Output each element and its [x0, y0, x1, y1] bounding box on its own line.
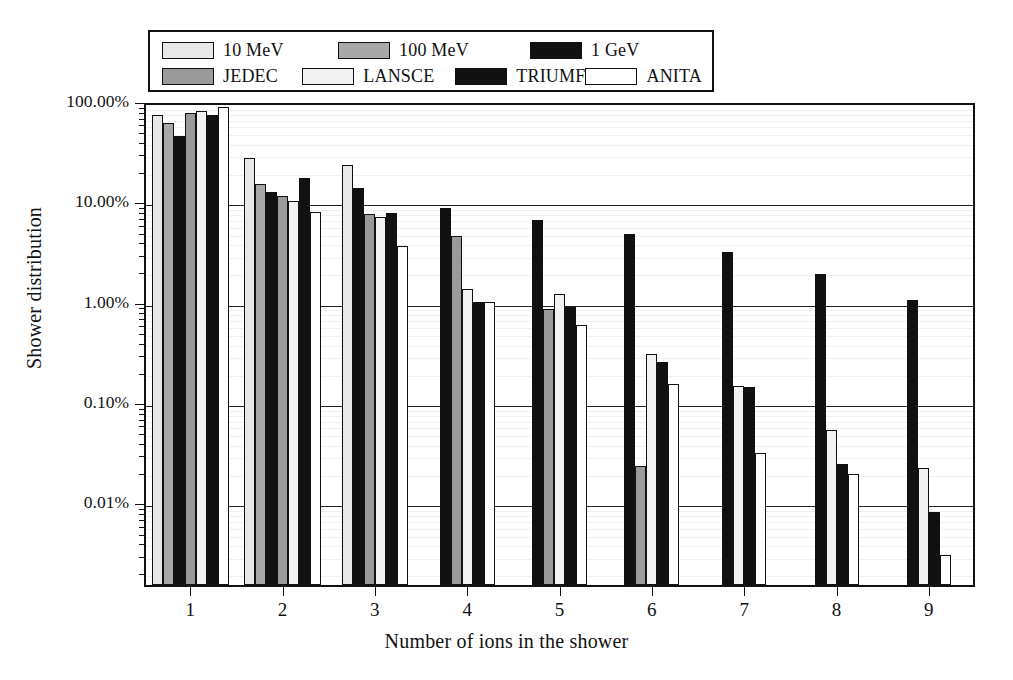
y-tick-minor — [139, 456, 144, 457]
y-tick-minor — [139, 226, 144, 227]
y-tick-minor — [139, 520, 144, 521]
minor-gridline — [146, 157, 973, 158]
bar-triumf-6 — [657, 362, 668, 585]
y-tick-minor — [139, 434, 144, 435]
bar-lansce-8 — [826, 430, 837, 585]
y-tick-minor — [139, 535, 144, 536]
bar-jedec-1 — [185, 113, 196, 585]
y-tick-minor — [139, 474, 144, 475]
plot-area — [144, 103, 975, 587]
bar-100-mev-1 — [163, 123, 174, 585]
bar-anita-7 — [755, 453, 766, 585]
y-tick-minor — [139, 119, 144, 120]
y-tick-major — [135, 304, 144, 305]
x-tick — [467, 587, 468, 596]
bar-anita-2 — [310, 212, 321, 585]
y-tick-minor — [139, 113, 144, 114]
legend-swatch-triumf — [455, 68, 507, 85]
minor-gridline — [146, 135, 973, 136]
y-tick-label: 10.00% — [11, 193, 129, 210]
y-tick-minor — [139, 319, 144, 320]
bar-1-gev-7 — [722, 252, 733, 585]
y-tick-minor — [139, 374, 144, 375]
x-tick-label-4: 4 — [447, 599, 487, 621]
y-tick-minor — [139, 155, 144, 156]
bar-jedec-2 — [277, 196, 288, 585]
legend-swatch-1-gev — [530, 42, 582, 59]
bar-jedec-3 — [364, 214, 375, 585]
bar-lansce-4 — [462, 289, 473, 585]
bar-triumf-5 — [565, 307, 576, 585]
legend-item-triumf: TRIUMF — [455, 63, 585, 89]
bar-anita-9 — [940, 555, 951, 585]
legend-item-1-gev: 1 GeV — [530, 37, 670, 63]
bar-10-mev-2 — [244, 158, 255, 585]
legend-item-lansce: LANSCE — [302, 63, 455, 89]
y-tick-minor — [139, 426, 144, 427]
x-tick-label-2: 2 — [263, 599, 303, 621]
bar-triumf-8 — [837, 464, 848, 585]
y-tick-label: 100.00% — [11, 93, 129, 110]
bar-triumf-7 — [744, 387, 755, 585]
x-tick — [283, 587, 284, 596]
legend-row-1: 10 MeV 100 MeV 1 GeV — [162, 37, 702, 63]
y-tick-minor — [139, 444, 144, 445]
legend-label-lansce: LANSCE — [363, 67, 434, 85]
legend-label-1-gev: 1 GeV — [591, 41, 640, 59]
bar-anita-1 — [218, 107, 229, 585]
y-tick-minor — [139, 574, 144, 575]
bar-1-gev-3 — [353, 188, 364, 585]
x-tick — [744, 587, 745, 596]
bar-lansce-3 — [375, 217, 386, 585]
y-tick-label: 1.00% — [11, 294, 129, 311]
x-tick-label-3: 3 — [355, 599, 395, 621]
bar-10-mev-3 — [342, 165, 353, 585]
bar-lansce-5 — [554, 294, 565, 585]
bar-100-mev-2 — [255, 184, 266, 585]
legend-label-anita: ANITA — [646, 67, 702, 85]
x-tick — [190, 587, 191, 596]
legend-label-100-mev: 100 MeV — [399, 41, 469, 59]
bar-1-gev-1 — [174, 136, 185, 585]
bar-triumf-9 — [929, 512, 940, 585]
legend-swatch-100-mev — [338, 42, 390, 59]
x-tick-label-7: 7 — [724, 599, 764, 621]
bar-anita-3 — [397, 246, 408, 585]
y-tick-minor — [139, 326, 144, 327]
bar-lansce-7 — [733, 386, 744, 585]
bar-lansce-6 — [646, 354, 657, 585]
bar-1-gev-2 — [266, 192, 277, 585]
x-tick-label-1: 1 — [170, 599, 210, 621]
bar-jedec-4 — [451, 236, 462, 585]
y-tick-major — [135, 203, 144, 204]
legend-row-2: JEDEC LANSCE TRIUMF ANITA — [162, 63, 702, 89]
y-tick-minor — [139, 356, 144, 357]
y-tick-minor — [139, 544, 144, 545]
minor-gridline — [146, 145, 973, 146]
y-tick-minor — [139, 219, 144, 220]
x-tick — [652, 587, 653, 596]
y-tick-minor — [139, 308, 144, 309]
bar-1-gev-6 — [624, 234, 635, 585]
y-tick-minor — [139, 557, 144, 558]
y-tick-major — [135, 504, 144, 505]
x-axis-title: Number of ions in the shower — [0, 630, 1013, 653]
minor-gridline — [146, 110, 973, 111]
legend-item-anita: ANITA — [585, 63, 702, 89]
legend-item-10-mev: 10 MeV — [162, 37, 338, 63]
bar-1-gev-4 — [440, 208, 451, 585]
legend-label-10-mev: 10 MeV — [223, 41, 284, 59]
y-tick-minor — [139, 409, 144, 410]
y-tick-minor — [139, 143, 144, 144]
bar-1-gev-9 — [907, 300, 918, 585]
y-tick-minor — [139, 208, 144, 209]
bar-lansce-2 — [288, 201, 299, 585]
legend-item-100-mev: 100 MeV — [338, 37, 530, 63]
bar-1-gev-8 — [815, 274, 826, 585]
y-tick-minor — [139, 133, 144, 134]
y-tick-minor — [139, 273, 144, 274]
bar-triumf-1 — [207, 115, 218, 585]
y-tick-major — [135, 103, 144, 104]
legend-swatch-10-mev — [162, 42, 214, 59]
bar-anita-5 — [576, 325, 587, 585]
